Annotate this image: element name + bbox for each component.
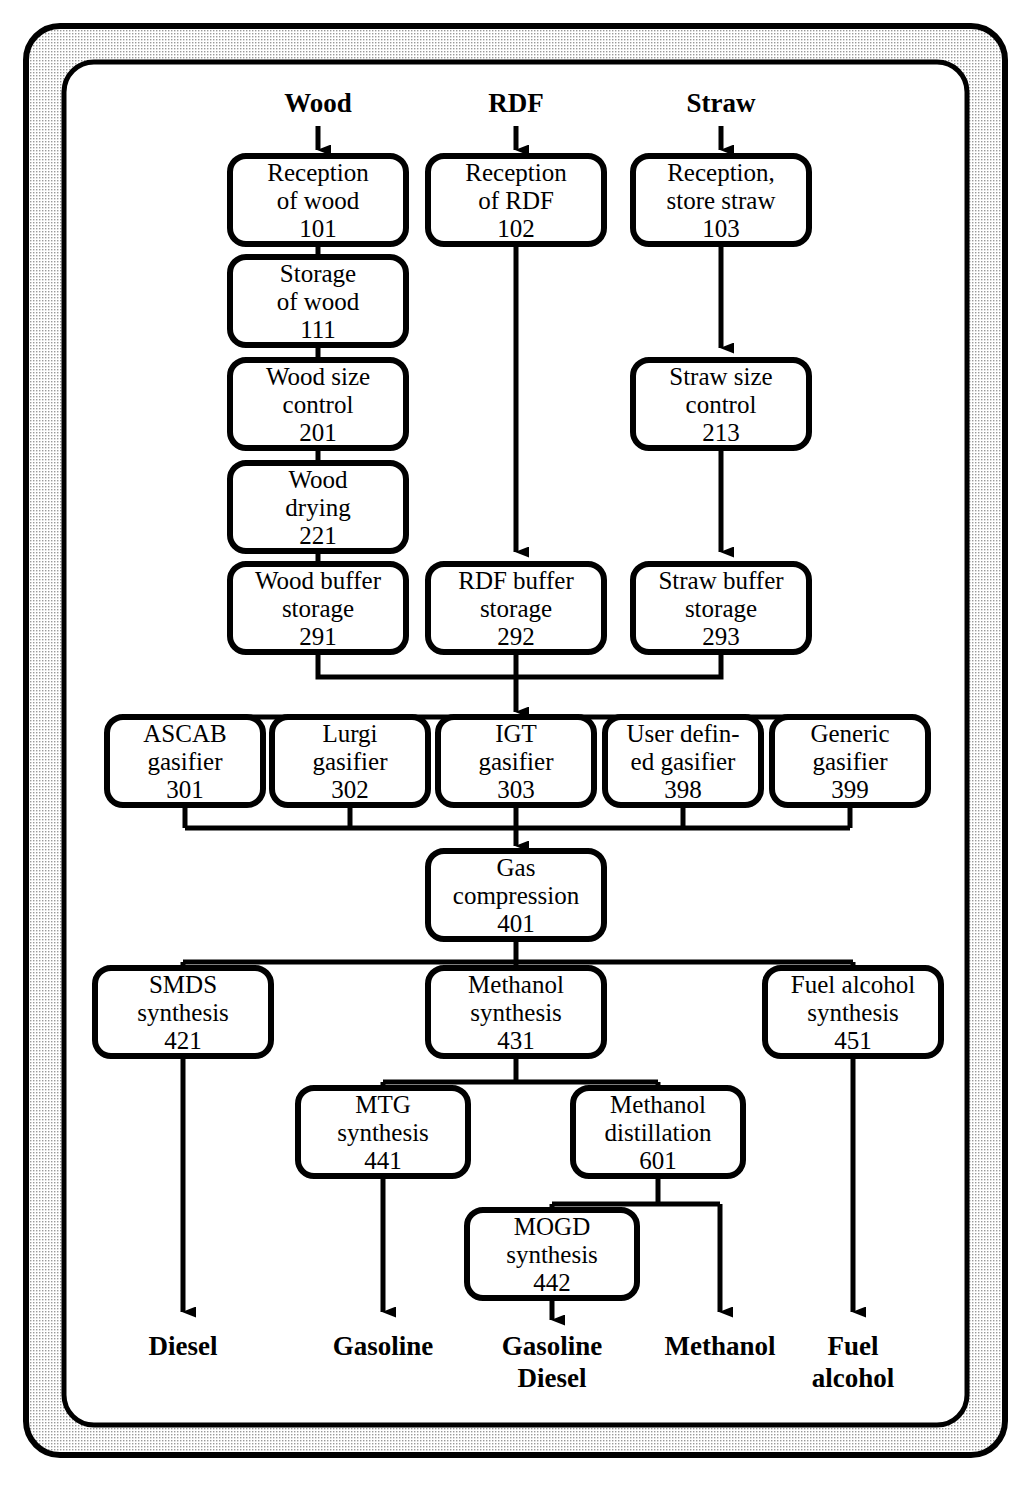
node-storage-of-wood[interactable]: Storageof wood111 [230, 257, 406, 345]
node-wood-buffer-storage[interactable]: Wood bufferstorage291 [230, 564, 406, 652]
node-label-line: synthesis [470, 999, 562, 1026]
node-label-line: ed gasifier [631, 748, 736, 775]
node-code: 301 [166, 776, 204, 803]
node-label-line: synthesis [337, 1119, 429, 1146]
node-label-line: gasifier [813, 748, 889, 775]
node-label-line: gasifier [313, 748, 389, 775]
node-label-line: gasifier [479, 748, 555, 775]
node-fuel-alcohol-synthesis[interactable]: Fuel alcoholsynthesis451 [765, 968, 941, 1056]
node-generic-gasifier[interactable]: Genericgasifier399 [772, 717, 928, 805]
node-code: 103 [702, 215, 740, 242]
node-label-line: RDF buffer [458, 567, 574, 594]
node-methanol-distillation[interactable]: Methanoldistillation601 [573, 1088, 743, 1176]
node-code: 451 [834, 1027, 872, 1054]
node-label-line: MOGD [514, 1213, 590, 1240]
output-methanol-label: Methanol [665, 1331, 776, 1361]
node-label-line: Lurgi [322, 720, 377, 747]
node-label-line: Wood [288, 466, 348, 493]
node-code: 101 [299, 215, 337, 242]
node-code: 431 [497, 1027, 535, 1054]
node-label-line: Reception [465, 159, 567, 186]
node-wood-drying[interactable]: Wooddrying221 [230, 463, 406, 551]
node-label-line: storage [282, 595, 354, 622]
node-label-line: Reception, [667, 159, 775, 186]
node-label-line: Wood buffer [255, 567, 382, 594]
output-gasoline-diesel-label: Gasoline [502, 1331, 603, 1361]
node-label-line: of wood [277, 288, 360, 315]
node-user-defined-gasifier[interactable]: User defin-ed gasifier398 [605, 717, 761, 805]
node-ascab-gasifier[interactable]: ASCABgasifier301 [107, 717, 263, 805]
node-methanol-synthesis[interactable]: Methanolsynthesis431 [428, 968, 604, 1056]
node-code: 111 [300, 316, 336, 343]
node-label-line: control [283, 391, 354, 418]
node-code: 601 [639, 1147, 677, 1174]
node-code: 303 [497, 776, 535, 803]
node-code: 398 [664, 776, 702, 803]
node-label-line: control [686, 391, 757, 418]
node-label-line: of RDF [478, 187, 554, 214]
node-igt-gasifier[interactable]: IGTgasifier303 [438, 717, 594, 805]
node-rdf-buffer-storage[interactable]: RDF bufferstorage292 [428, 564, 604, 652]
node-code: 421 [164, 1027, 202, 1054]
input-straw-label: Straw [687, 88, 756, 118]
node-label-line: storage [685, 595, 757, 622]
node-label-line: SMDS [149, 971, 217, 998]
node-code: 201 [299, 419, 337, 446]
node-label-line: Straw size [669, 363, 772, 390]
node-label-line: Generic [810, 720, 889, 747]
node-label-line: Reception [267, 159, 369, 186]
node-code: 221 [299, 522, 337, 549]
node-label-line: storage [480, 595, 552, 622]
node-label-line: compression [453, 882, 580, 909]
node-label-line: distillation [605, 1119, 712, 1146]
node-label-line: gasifier [148, 748, 224, 775]
node-code: 302 [331, 776, 369, 803]
process-flow-diagram: Receptionof wood101Receptionof RDF102Rec… [0, 0, 1031, 1500]
node-code: 292 [497, 623, 535, 650]
node-gas-compression[interactable]: Gascompression401 [428, 851, 604, 939]
node-label-line: synthesis [807, 999, 899, 1026]
output-fuel-alcohol-label: alcohol [812, 1363, 895, 1393]
node-wood-size-control[interactable]: Wood sizecontrol201 [230, 360, 406, 448]
node-label-line: drying [285, 494, 351, 521]
node-label-line: Wood size [266, 363, 370, 390]
node-label-line: User defin- [626, 720, 739, 747]
input-rdf-label: RDF [488, 88, 544, 118]
node-label-line: Fuel alcohol [791, 971, 915, 998]
node-label-line: ASCAB [143, 720, 226, 747]
node-code: 291 [299, 623, 337, 650]
node-straw-size-control[interactable]: Straw sizecontrol213 [633, 360, 809, 448]
node-label-line: Straw buffer [658, 567, 784, 594]
output-fuel-alcohol-label: Fuel [828, 1331, 879, 1361]
node-code: 293 [702, 623, 740, 650]
node-straw-buffer-storage[interactable]: Straw bufferstorage293 [633, 564, 809, 652]
node-code: 401 [497, 910, 535, 937]
node-label-line: Gas [497, 854, 536, 881]
node-lurgi-gasifier[interactable]: Lurgigasifier302 [272, 717, 428, 805]
node-label-line: Methanol [468, 971, 564, 998]
node-code: 213 [702, 419, 740, 446]
node-code: 442 [533, 1269, 571, 1296]
node-mtg-synthesis[interactable]: MTGsynthesis441 [298, 1088, 468, 1176]
output-diesel-label: Diesel [149, 1331, 218, 1361]
node-reception-of-wood[interactable]: Receptionof wood101 [230, 156, 406, 244]
node-label-line: store straw [667, 187, 776, 214]
input-wood-label: Wood [284, 88, 352, 118]
node-mogd-synthesis[interactable]: MOGDsynthesis442 [467, 1210, 637, 1298]
output-gasoline-diesel-label: Diesel [518, 1363, 587, 1393]
node-code: 102 [497, 215, 535, 242]
node-reception-of-rdf[interactable]: Receptionof RDF102 [428, 156, 604, 244]
node-label-line: Storage [280, 260, 356, 287]
node-code: 441 [364, 1147, 402, 1174]
node-smds-synthesis[interactable]: SMDSsynthesis421 [95, 968, 271, 1056]
node-code: 399 [831, 776, 869, 803]
node-reception-store-straw[interactable]: Reception,store straw103 [633, 156, 809, 244]
node-label-line: synthesis [137, 999, 229, 1026]
node-label-line: MTG [355, 1091, 411, 1118]
flowchart-page: Receptionof wood101Receptionof RDF102Rec… [0, 0, 1031, 1500]
output-gasoline-label: Gasoline [333, 1331, 434, 1361]
node-label-line: synthesis [506, 1241, 598, 1268]
node-label-line: IGT [495, 720, 537, 747]
node-label-line: of wood [277, 187, 360, 214]
node-label-line: Methanol [610, 1091, 706, 1118]
